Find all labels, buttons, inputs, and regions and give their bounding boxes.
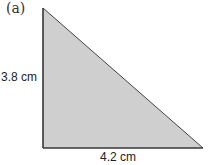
- height-label: 3.8 cm: [1, 70, 37, 84]
- base-label: 4.2 cm: [100, 150, 136, 164]
- triangle-shape: [43, 8, 203, 148]
